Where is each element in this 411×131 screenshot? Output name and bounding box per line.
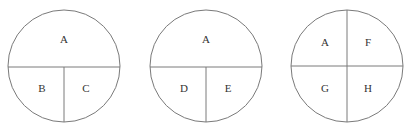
region-label-a: A [60,33,68,45]
region-label-b: B [38,82,45,94]
region-label-c: C [82,82,89,94]
circle-group-3: A F G H [291,10,403,122]
region-label-e: E [225,82,232,94]
circle-group-1: A B C [8,10,120,122]
region-label-a: A [321,36,329,48]
region-label-h: H [364,82,372,94]
region-label-f: F [365,36,371,48]
venn-partition-diagram: A B C A D E A F G H [0,0,411,131]
region-label-a: A [202,33,210,45]
region-label-d: D [180,82,188,94]
region-label-g: G [321,82,329,94]
circle-group-2: A D E [150,10,262,122]
